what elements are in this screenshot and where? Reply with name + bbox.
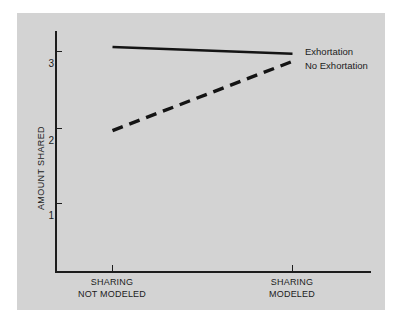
figure: AMOUNT SHARED 3 2 1 SHARING NOT MODELED … <box>0 0 403 323</box>
series-line-no-exhortation <box>113 61 293 130</box>
plot-area <box>0 0 403 323</box>
series-line-exhortation <box>113 47 293 54</box>
